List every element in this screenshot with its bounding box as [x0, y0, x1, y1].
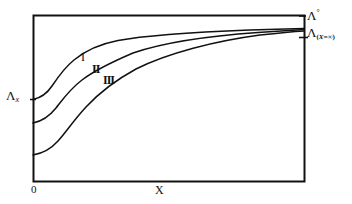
- figure-container: Λx X 0 Λ° Λ(X=∞) I II III: [0, 0, 352, 204]
- subscript-close-paren: ): [332, 33, 334, 41]
- plot-area: [0, 0, 352, 204]
- plot-frame: [34, 16, 305, 182]
- y-axis-label-subscript: x: [15, 95, 19, 104]
- y-axis-label: Λx: [6, 89, 19, 104]
- lambda-infinity-label: Λ(X=∞): [307, 26, 335, 41]
- lambda-zero-superscript: °: [316, 8, 319, 17]
- curve-label-i: I: [81, 51, 85, 63]
- lambda-infinity-subscript: (X=∞): [316, 33, 334, 41]
- curve-label-iii: III: [103, 74, 114, 86]
- x-axis-label: X: [155, 184, 164, 196]
- curve-ii: [33, 30, 304, 123]
- origin-label: 0: [31, 184, 37, 195]
- lambda-zero-label: Λ°: [307, 9, 320, 22]
- curve-label-ii: II: [92, 63, 99, 75]
- curve-iii: [33, 31, 304, 155]
- curve-i: [33, 28, 304, 99]
